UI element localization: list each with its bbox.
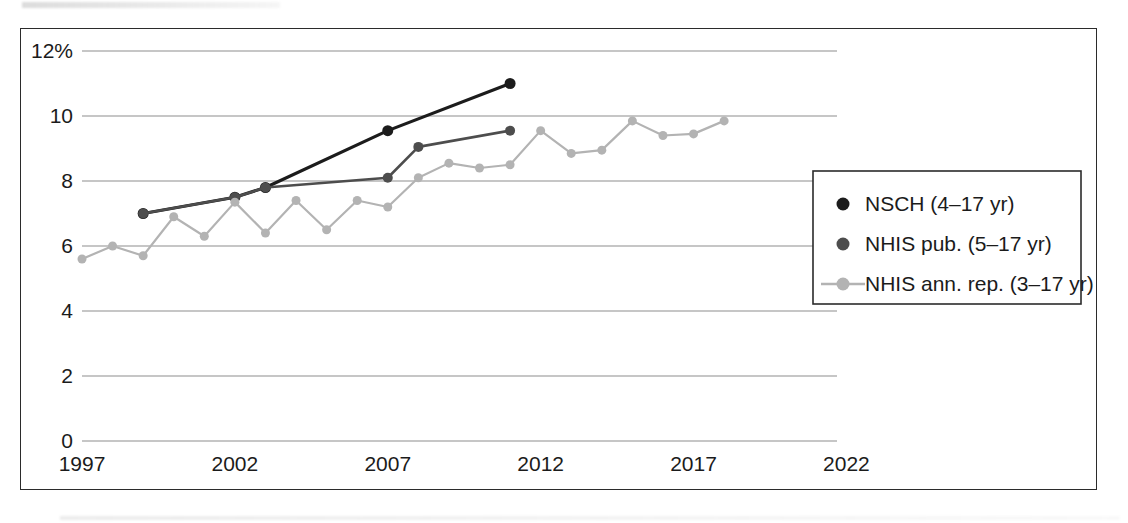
data-point bbox=[597, 146, 606, 155]
line-chart-plot: 024681012% 199720022007201220172022 NSCH… bbox=[21, 29, 1095, 488]
data-point bbox=[505, 78, 516, 89]
y-tick-label: 12% bbox=[31, 39, 73, 62]
data-point bbox=[138, 209, 148, 219]
data-point bbox=[383, 203, 392, 212]
data-point bbox=[567, 149, 576, 158]
data-point bbox=[108, 242, 117, 251]
legend-label-2: NHIS ann. rep. (3–17 yr) bbox=[865, 272, 1094, 295]
data-point bbox=[536, 126, 545, 135]
series-line-0 bbox=[143, 84, 510, 214]
data-point bbox=[628, 116, 637, 125]
x-tick-label: 2022 bbox=[823, 452, 870, 475]
chart-legend: NSCH (4–17 yr)NHIS pub. (5–17 yr)NHIS an… bbox=[813, 171, 1094, 304]
y-axis-tick-labels: 024681012% bbox=[31, 39, 73, 452]
scan-artifact-bottom bbox=[60, 516, 1120, 520]
x-tick-label: 2017 bbox=[670, 452, 717, 475]
x-tick-label: 1997 bbox=[59, 452, 106, 475]
data-point bbox=[78, 255, 87, 264]
series-line-1 bbox=[143, 131, 510, 214]
data-series-group bbox=[78, 78, 729, 264]
x-tick-label: 2012 bbox=[517, 452, 564, 475]
data-point bbox=[475, 164, 484, 173]
data-point bbox=[506, 160, 515, 169]
data-point bbox=[292, 196, 301, 205]
y-tick-label: 0 bbox=[61, 429, 73, 452]
gridlines-group bbox=[82, 51, 837, 441]
legend-marker-2 bbox=[837, 278, 850, 291]
legend-label-0: NSCH (4–17 yr) bbox=[865, 192, 1014, 215]
data-point bbox=[169, 212, 178, 221]
data-point bbox=[322, 225, 331, 234]
figure-root: 024681012% 199720022007201220172022 NSCH… bbox=[0, 0, 1128, 523]
data-point bbox=[414, 173, 423, 182]
data-point bbox=[658, 131, 667, 140]
legend-marker-0 bbox=[837, 198, 850, 211]
data-point bbox=[230, 198, 239, 207]
scan-artifact-top bbox=[22, 2, 280, 8]
x-tick-label: 2007 bbox=[364, 452, 411, 475]
y-tick-label: 10 bbox=[50, 104, 73, 127]
y-tick-label: 4 bbox=[61, 299, 73, 322]
legend-marker-1 bbox=[837, 238, 850, 251]
data-point bbox=[689, 129, 698, 138]
data-point bbox=[413, 142, 423, 152]
data-point bbox=[200, 232, 209, 241]
legend-label-1: NHIS pub. (5–17 yr) bbox=[865, 232, 1052, 255]
y-tick-label: 8 bbox=[61, 169, 73, 192]
data-point bbox=[720, 116, 729, 125]
data-point bbox=[444, 159, 453, 168]
y-tick-label: 2 bbox=[61, 364, 73, 387]
x-tick-label: 2002 bbox=[212, 452, 259, 475]
data-point bbox=[261, 229, 270, 238]
data-point bbox=[353, 196, 362, 205]
data-point bbox=[383, 173, 393, 183]
x-axis-tick-labels: 199720022007201220172022 bbox=[59, 452, 870, 475]
data-point bbox=[382, 125, 393, 136]
data-point bbox=[260, 183, 270, 193]
series-line-2 bbox=[82, 121, 724, 259]
y-tick-label: 6 bbox=[61, 234, 73, 257]
data-point bbox=[505, 126, 515, 136]
data-point bbox=[139, 251, 148, 260]
chart-frame: 024681012% 199720022007201220172022 NSCH… bbox=[20, 28, 1097, 490]
